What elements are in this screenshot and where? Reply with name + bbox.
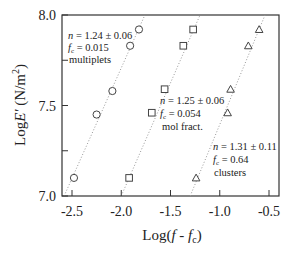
- annotation-clusters: n = 1.31 ± 0.11 fc = 0.64 clusters: [213, 141, 277, 178]
- data-point-square: [190, 26, 197, 33]
- data-point-triangle: [255, 26, 263, 33]
- y-tick-label: 7.0: [39, 189, 57, 204]
- annotation-label-mol-fract: mol fract.: [162, 121, 203, 132]
- annotation-multiplets: n = 1.24 ± 0.06 fc = 0.015 multiplets: [68, 30, 132, 65]
- y-axis-title: LogE' (N/m2): [10, 64, 29, 146]
- annotation-n-multiplets: n = 1.24 ± 0.06: [68, 30, 132, 41]
- x-tick-label: -0.5: [258, 204, 280, 219]
- x-tick-label: -1.0: [209, 204, 231, 219]
- annotation-mol-fract: n = 1.25 ± 0.06 fc = 0.054 mol fract.: [160, 95, 224, 132]
- x-axis-title: Log(f - fc): [142, 227, 201, 245]
- x-tick-label: -2.0: [110, 204, 132, 219]
- data-point-square: [161, 86, 168, 93]
- chart: -2.5-2.0-1.5-1.0-0.57.07.58.0 n = 1.24 ±…: [0, 0, 290, 256]
- y-tick-label: 8.0: [39, 8, 57, 23]
- data-point-circle: [93, 111, 100, 118]
- data-point-square: [126, 175, 133, 182]
- annotation-n-clusters: n = 1.31 ± 0.11: [213, 141, 277, 152]
- annotation-label-multiplets: multiplets: [69, 54, 111, 65]
- data-point-triangle: [245, 42, 253, 49]
- y-tick-label: 7.5: [39, 99, 57, 114]
- annotation-fc-clusters: fc = 0.64: [213, 154, 249, 167]
- data-point-circle: [109, 87, 116, 94]
- data-point-circle: [70, 174, 77, 181]
- annotation-n-mol-fract: n = 1.25 ± 0.06: [160, 95, 224, 106]
- data-point-circle: [135, 26, 142, 33]
- data-point-triangle: [227, 85, 235, 92]
- data-point-circle: [127, 42, 134, 49]
- annotation-label-clusters: clusters: [214, 167, 246, 178]
- x-tick-label: -1.5: [159, 204, 181, 219]
- x-tick-label: -2.5: [61, 204, 83, 219]
- data-point-square: [148, 109, 155, 116]
- data-point-triangle: [192, 174, 200, 181]
- data-point-square: [180, 42, 187, 49]
- annotation-fc-mol-fract: fc = 0.054: [160, 108, 202, 121]
